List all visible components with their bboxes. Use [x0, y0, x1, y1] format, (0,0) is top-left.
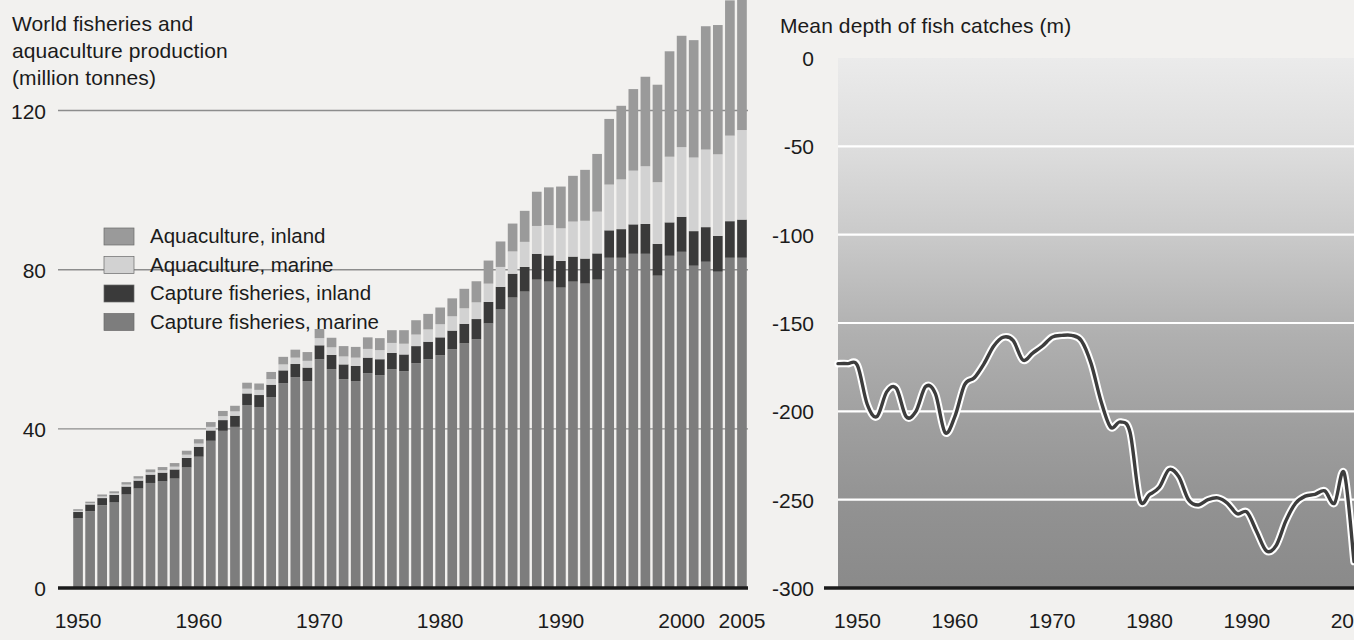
- x-tick-label: 2001: [1331, 609, 1354, 632]
- bar-segment: [641, 166, 651, 224]
- bar-segment: [303, 381, 313, 588]
- bar-segment: [290, 358, 300, 364]
- bar-segment: [375, 375, 385, 588]
- bar-group: [278, 357, 288, 588]
- bar-segment: [532, 280, 542, 588]
- bar-segment: [508, 274, 518, 298]
- x-tick-label: 1950: [55, 609, 102, 632]
- bar-group: [677, 36, 687, 588]
- bar-segment: [387, 343, 397, 353]
- bar-group: [508, 224, 518, 588]
- bar-segment: [170, 469, 180, 478]
- bar-segment: [134, 489, 144, 588]
- bar-group: [496, 241, 506, 588]
- bar-segment: [423, 359, 433, 588]
- legend-item: Capture fisheries, inland: [104, 281, 371, 304]
- bar-segment: [194, 444, 204, 447]
- bar-segment: [278, 364, 288, 370]
- bar-segment: [544, 187, 554, 225]
- bar-segment: [375, 338, 385, 350]
- bar-group: [737, 0, 747, 588]
- bar-segment: [182, 455, 192, 458]
- x-tick-label: 1980: [417, 609, 464, 632]
- bar-group: [653, 85, 663, 588]
- bar-group: [351, 347, 361, 588]
- bar-segment: [242, 389, 252, 394]
- bar-segment: [701, 262, 711, 588]
- bar-chart-x-tick-labels: 1950196019701980199020002005: [55, 609, 766, 632]
- bar-segment: [242, 393, 252, 405]
- bar-segment: [363, 373, 373, 588]
- x-tick-label: 1960: [931, 609, 978, 632]
- bar-segment: [206, 427, 216, 431]
- bar-segment: [665, 222, 675, 255]
- bar-segment: [592, 154, 602, 212]
- bar-segment: [496, 310, 506, 589]
- bar-segment: [472, 281, 482, 302]
- bar-segment: [97, 495, 107, 497]
- bar-segment: [544, 225, 554, 255]
- bar-segment: [218, 411, 228, 416]
- bar-segment: [423, 342, 433, 360]
- bar-segment: [641, 77, 651, 167]
- x-tick-label: 1990: [1224, 609, 1271, 632]
- bar-segment: [689, 231, 699, 266]
- bar-group: [230, 406, 240, 588]
- bar-group: [182, 451, 192, 588]
- bar-segment: [315, 359, 325, 588]
- bar-segment: [158, 470, 168, 472]
- y-tick-label: 80: [23, 259, 46, 282]
- bar-segment: [218, 416, 228, 420]
- bar-segment: [520, 211, 530, 242]
- bar-chart-y-tick-labels: 12080400: [11, 100, 46, 600]
- bar-segment: [230, 411, 240, 415]
- bar-segment: [580, 170, 590, 221]
- bar-segment: [628, 89, 638, 171]
- bar-segment: [266, 385, 276, 397]
- bar-segment: [230, 416, 240, 427]
- bar-segment: [121, 495, 131, 589]
- bar-segment: [85, 503, 95, 504]
- bar-segment: [580, 221, 590, 259]
- bar-segment: [701, 227, 711, 262]
- bar-segment: [544, 255, 554, 281]
- bar-segment: [158, 473, 168, 482]
- bar-segment: [532, 226, 542, 254]
- bar-segment: [725, 0, 735, 135]
- bar-segment: [423, 329, 433, 341]
- bar-segment: [351, 366, 361, 381]
- bar-segment: [109, 495, 119, 503]
- bar-segment: [544, 282, 554, 588]
- bar-segment: [653, 244, 663, 276]
- bar-segment: [290, 364, 300, 377]
- y-tick-label: -200: [772, 400, 814, 423]
- bar-segment: [532, 192, 542, 226]
- bar-segment: [447, 316, 457, 330]
- bar-segment: [85, 504, 95, 511]
- bar-segment: [677, 217, 687, 252]
- bar-segment: [641, 224, 651, 254]
- bar-group: [158, 467, 168, 588]
- bar-segment: [411, 320, 421, 334]
- x-tick-label: 2005: [719, 609, 766, 632]
- bar-group: [242, 383, 252, 588]
- bar-group: [109, 491, 119, 588]
- bar-group: [303, 352, 313, 588]
- bar-segment: [677, 147, 687, 217]
- bar-segment: [73, 511, 83, 512]
- bar-group: [85, 502, 95, 588]
- bar-segment: [568, 257, 578, 282]
- bar-segment: [134, 476, 144, 478]
- legend-label: Aquaculture, marine: [150, 253, 333, 276]
- bar-segment: [520, 242, 530, 267]
- bar-segment: [315, 345, 325, 359]
- bar-segment: [520, 267, 530, 292]
- bar-group: [568, 176, 578, 588]
- bar-segment: [689, 266, 699, 588]
- legend-label: Capture fisheries, inland: [150, 281, 371, 304]
- bar-group: [206, 422, 216, 588]
- bar-segment: [109, 493, 119, 495]
- legend-swatch: [104, 257, 134, 274]
- bar-segment: [158, 467, 168, 470]
- bar-segment: [266, 372, 276, 379]
